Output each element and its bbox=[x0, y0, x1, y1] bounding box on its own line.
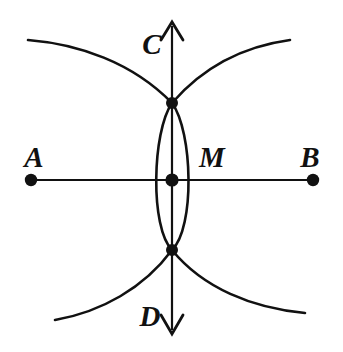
label-m: M bbox=[198, 141, 226, 173]
lower-intersection-dot bbox=[166, 244, 178, 256]
point-m-dot bbox=[165, 173, 178, 186]
arc-from-b-upper bbox=[172, 40, 290, 103]
label-a: A bbox=[22, 141, 43, 173]
upper-intersection-dot bbox=[166, 97, 178, 109]
construction-figure: A B C D M bbox=[0, 0, 343, 352]
arc-from-b-lower bbox=[172, 250, 305, 313]
label-c: C bbox=[142, 28, 162, 60]
geometry-diagram: A B C D M bbox=[0, 0, 343, 352]
point-b-dot bbox=[307, 174, 319, 186]
point-a-dot bbox=[25, 174, 37, 186]
label-b: B bbox=[299, 141, 319, 173]
label-d: D bbox=[139, 300, 161, 332]
